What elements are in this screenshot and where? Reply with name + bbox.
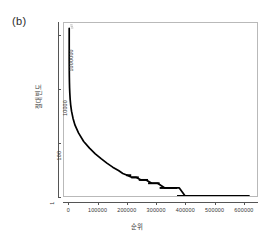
x-tick-label: 0 (67, 207, 70, 213)
panel-label: (b) (12, 15, 26, 27)
x-tick-mark (68, 202, 69, 205)
frequency-curve (69, 28, 249, 196)
x-tick-label: 400000 (176, 207, 195, 213)
x-tick-mark (98, 202, 99, 205)
y-axis-label: 절대 빈도 (34, 84, 43, 110)
x-tick-label: 500000 (205, 207, 224, 213)
x-tick-label: 600000 (234, 207, 253, 213)
top-cluster-mark (71, 27, 73, 28)
y-axis-line (58, 22, 59, 197)
y-tick-mark (58, 197, 61, 198)
x-axis-line (63, 202, 258, 203)
top-cluster-marks (70, 24, 73, 28)
chart-figure: (b) 1100100001000000 0100000200000300000… (0, 0, 274, 241)
x-tick-mark (215, 202, 216, 205)
x-tick-label: 300000 (146, 207, 165, 213)
x-tick-label: 200000 (117, 207, 136, 213)
x-tick-label: 100000 (88, 207, 107, 213)
x-axis-label: 순위 (0, 222, 274, 231)
plot-frame (63, 22, 258, 197)
y-tick-label: 100 (56, 151, 62, 161)
y-tick-mark (58, 89, 61, 90)
plot-area (64, 23, 257, 196)
y-tick-label: 1 (49, 202, 55, 205)
x-tick-mark (156, 202, 157, 205)
y-tick-mark (58, 35, 61, 36)
top-cluster-mark (71, 26, 73, 27)
x-tick-mark (244, 202, 245, 205)
step-segments (126, 175, 249, 196)
y-tick-mark (58, 143, 61, 144)
top-cluster-mark (70, 24, 72, 25)
x-tick-mark (185, 202, 186, 205)
x-tick-mark (127, 202, 128, 205)
